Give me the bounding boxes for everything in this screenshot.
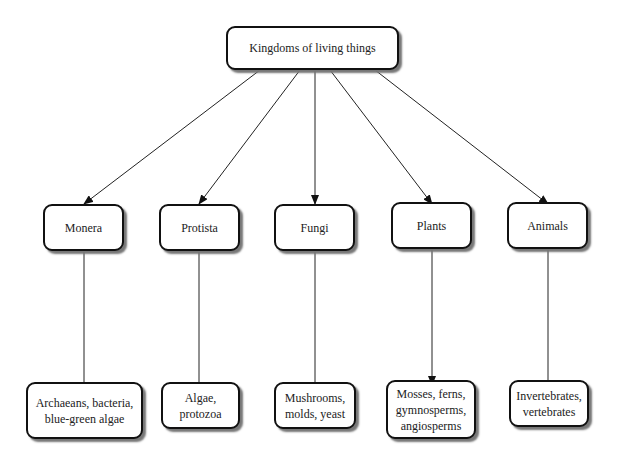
examples-node-fungi: Mushrooms, molds, yeast: [274, 382, 356, 429]
examples-node-monera: Archaeans, bacteria, blue-green algae: [26, 382, 143, 439]
kingdom-node-fungi: Fungi: [274, 204, 355, 251]
examples-node-plants: Mosses, ferns, gymnosperms, angiosperms: [386, 380, 476, 439]
kingdom-label: Monera: [65, 220, 102, 236]
root-label: Kingdoms of living things: [249, 40, 375, 56]
examples-text: Archaeans, bacteria, blue-green algae: [36, 395, 134, 427]
root-node: Kingdoms of living things: [226, 26, 399, 70]
kingdom-label: Protista: [181, 220, 218, 236]
examples-text: Mushrooms, molds, yeast: [285, 390, 345, 422]
kingdom-node-protista: Protista: [159, 204, 240, 251]
kingdom-node-monera: Monera: [43, 204, 124, 251]
examples-text: Mosses, ferns, gymnosperms, angiosperms: [396, 386, 466, 434]
kingdom-label: Fungi: [300, 220, 328, 236]
kingdom-label: Animals: [527, 218, 568, 234]
examples-node-protista: Algae, protozoa: [161, 382, 240, 429]
examples-text: Algae, protozoa: [180, 390, 222, 422]
kingdom-label: Plants: [417, 218, 446, 234]
examples-text: Invertebrates, vertebrates: [516, 388, 582, 420]
kingdom-node-plants: Plants: [391, 202, 472, 249]
kingdom-node-animals: Animals: [507, 202, 588, 249]
examples-node-animals: Invertebrates, vertebrates: [509, 380, 589, 427]
